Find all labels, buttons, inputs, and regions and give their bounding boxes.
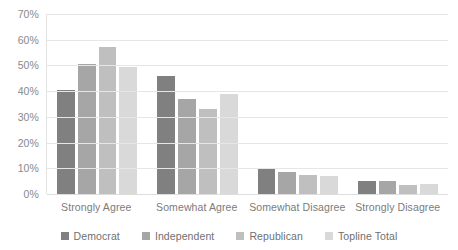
- gridline: [47, 14, 448, 15]
- bar[interactable]: [379, 181, 397, 194]
- x-axis-category-label: Somewhat Agree: [147, 196, 248, 218]
- gridline: [47, 91, 448, 92]
- legend-label: Democrat: [74, 230, 120, 242]
- bar[interactable]: [99, 47, 117, 194]
- gridline: [47, 65, 448, 66]
- y-axis-tick-label: 10%: [18, 162, 39, 174]
- bar[interactable]: [220, 94, 238, 194]
- bar[interactable]: [178, 99, 196, 194]
- legend-item[interactable]: Democrat: [61, 230, 120, 242]
- legend-swatch-icon: [61, 232, 69, 240]
- bar[interactable]: [78, 64, 96, 194]
- gridline: [47, 168, 448, 169]
- bar-group: [47, 14, 147, 194]
- legend-label: Republican: [249, 230, 303, 242]
- bar[interactable]: [299, 175, 317, 194]
- x-axis-category-label: Strongly Disagree: [348, 196, 449, 218]
- y-axis-tick-label: 20%: [18, 137, 39, 149]
- bar[interactable]: [119, 67, 137, 194]
- y-axis-tick-label: 50%: [18, 59, 39, 71]
- bar[interactable]: [420, 184, 438, 194]
- gridline: [47, 143, 448, 144]
- axis-baseline: [47, 194, 448, 195]
- y-axis: 0%10%20%30%40%50%60%70%: [0, 0, 44, 200]
- bar[interactable]: [278, 172, 296, 194]
- bar[interactable]: [199, 109, 217, 194]
- bar-group: [147, 14, 247, 194]
- bar[interactable]: [399, 185, 417, 194]
- bar[interactable]: [258, 168, 276, 194]
- bar[interactable]: [157, 76, 175, 194]
- y-axis-tick-label: 30%: [18, 111, 39, 123]
- chart-legend: DemocratIndependentRepublicanTopline Tot…: [0, 226, 458, 246]
- y-axis-tick-label: 60%: [18, 34, 39, 46]
- legend-swatch-icon: [236, 232, 244, 240]
- bar-chart: 0%10%20%30%40%50%60%70% Strongly AgreeSo…: [0, 0, 458, 250]
- legend-item[interactable]: Republican: [236, 230, 303, 242]
- legend-item[interactable]: Topline Total: [325, 230, 397, 242]
- bar[interactable]: [320, 176, 338, 194]
- legend-label: Independent: [155, 230, 215, 242]
- plot-wrapper: 0%10%20%30%40%50%60%70%: [0, 0, 458, 200]
- y-axis-tick-label: 40%: [18, 85, 39, 97]
- y-axis-tick-label: 0%: [24, 188, 39, 200]
- plot-area: [46, 14, 448, 194]
- legend-item[interactable]: Independent: [142, 230, 215, 242]
- x-axis-category-label: Strongly Agree: [46, 196, 147, 218]
- y-axis-tick-label: 70%: [18, 8, 39, 20]
- bar-group: [348, 14, 448, 194]
- bar-group: [248, 14, 348, 194]
- gridline: [47, 40, 448, 41]
- x-axis-labels: Strongly AgreeSomewhat AgreeSomewhat Dis…: [46, 196, 448, 218]
- gridline: [47, 117, 448, 118]
- x-axis-category-label: Somewhat Disagree: [247, 196, 348, 218]
- legend-swatch-icon: [325, 232, 333, 240]
- bar-groups: [47, 14, 448, 194]
- legend-label: Topline Total: [338, 230, 397, 242]
- legend-swatch-icon: [142, 232, 150, 240]
- bar[interactable]: [358, 181, 376, 194]
